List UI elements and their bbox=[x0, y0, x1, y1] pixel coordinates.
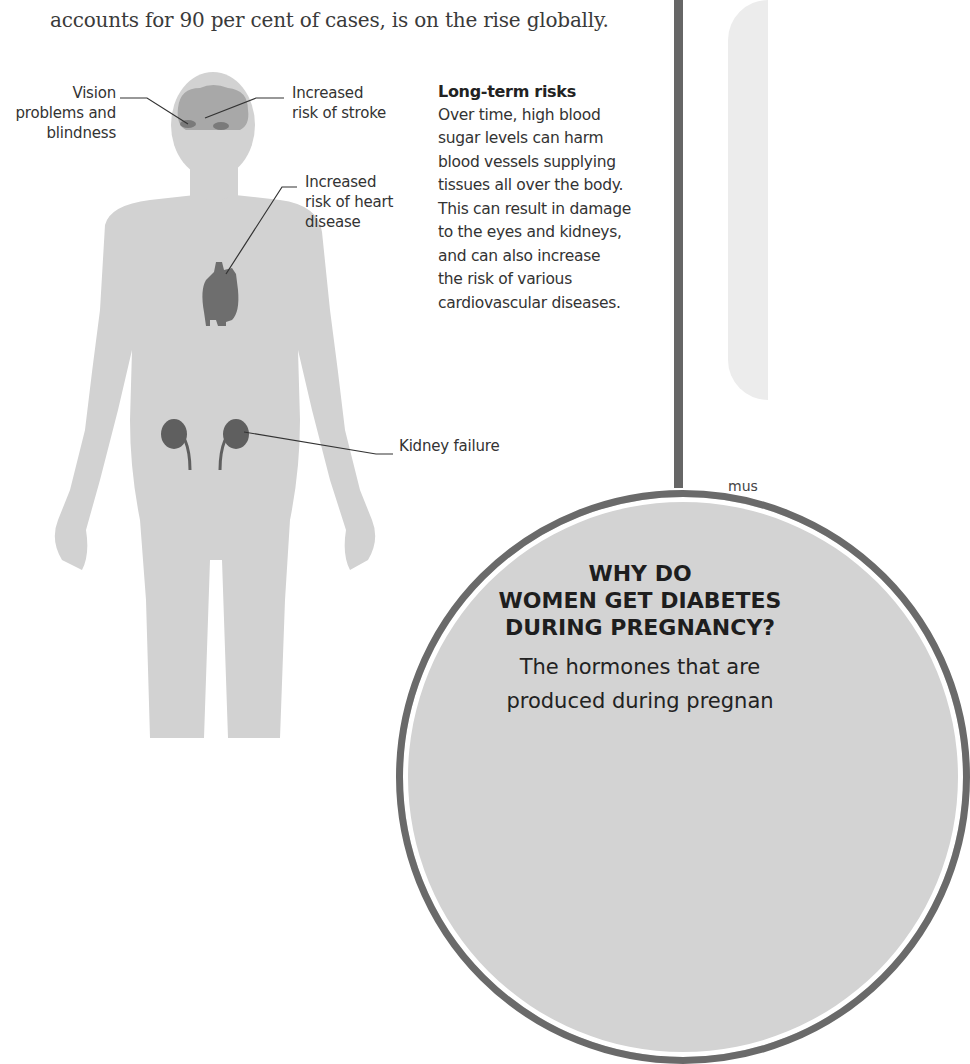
kidney-left-icon bbox=[161, 419, 187, 449]
eye-right-icon bbox=[213, 122, 229, 130]
label-stroke: Increased risk of stroke bbox=[292, 83, 386, 123]
callout-title: WHY DO WOMEN GET DIABETES DURING PREGNAN… bbox=[440, 560, 840, 641]
callout-body: The hormones that are produced during pr… bbox=[420, 650, 860, 718]
column-divider bbox=[674, 0, 683, 488]
right-panel-fragment: mus bbox=[728, 478, 758, 494]
sidebar-title: Long-term risks bbox=[438, 80, 678, 104]
label-kidney: Kidney failure bbox=[399, 436, 500, 456]
label-vision: Vision problems and blindness bbox=[0, 83, 116, 143]
kidney-right-icon bbox=[223, 419, 249, 449]
right-panel-shape bbox=[728, 0, 768, 400]
long-term-risks: Long-term risks Over time, high blood su… bbox=[438, 80, 678, 315]
label-heart: Increased risk of heart disease bbox=[305, 172, 393, 232]
